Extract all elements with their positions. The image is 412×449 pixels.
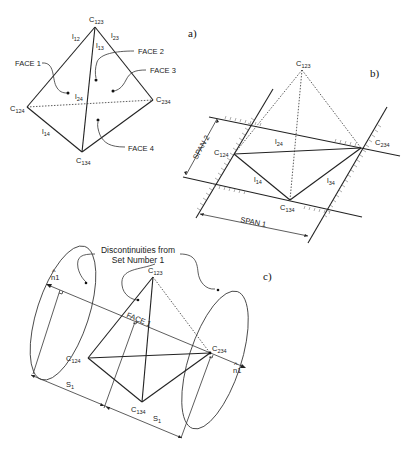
edge-l24 — [234, 148, 361, 154]
joint-right — [308, 107, 387, 243]
panel-b: b) SPAN 2 SPAN 1 C123 C124 C234 — [183, 59, 400, 243]
vertex-c134-label: C134 — [131, 405, 146, 415]
annotation-dot-left — [85, 282, 88, 285]
panel-a-label: a) — [188, 27, 197, 40]
vertex-c124-label: C124 — [214, 148, 229, 158]
tetrahedral-wedge-diagram: a) C123 C124 C234 C134 l12 l13 l23 l24 l… — [0, 0, 412, 449]
face-1-label: FACE 1 — [125, 311, 152, 329]
annotation-leader-left — [78, 254, 95, 282]
edge-l23-hidden — [153, 277, 210, 353]
vertex-c123-label: C123 — [148, 266, 163, 276]
edge-l14 — [88, 358, 142, 402]
vertex-c123-label: C123 — [89, 15, 104, 25]
discontinuity-plane-right — [168, 283, 262, 436]
vertex-c234-label: C234 — [212, 344, 227, 354]
spacing-label-2: S1 — [153, 414, 161, 424]
edge-l24-hidden — [27, 100, 153, 107]
edge-l12-label: l12 — [72, 32, 80, 42]
panel-b-label: b) — [370, 67, 380, 80]
edge-l34-label: l34 — [327, 176, 335, 186]
face-4-leader — [98, 122, 125, 147]
vertex-c234-label: C234 — [156, 95, 171, 105]
panel-c: c) Discontinuities — [17, 238, 272, 438]
face-2-leader — [95, 51, 134, 78]
vertex-c123-label: C123 — [296, 59, 311, 69]
plane-left-projection — [33, 290, 60, 374]
normal-hat-right: ^ — [234, 360, 238, 369]
face-1-leader — [42, 63, 67, 93]
edge-l34 — [142, 353, 210, 402]
edge-l14 — [27, 107, 82, 152]
face-2-dot — [95, 79, 98, 82]
spacing-dimension-line — [31, 375, 182, 438]
edge-l14 — [234, 154, 290, 200]
panel-a: a) C123 C124 C234 C134 l12 l13 l23 l24 l… — [10, 15, 197, 166]
vertex-c124-label: C124 — [66, 354, 81, 364]
annotation-dot-middle — [137, 299, 140, 302]
edge-l12-hidden — [234, 70, 302, 154]
face-3-label: FACE 3 — [150, 66, 176, 75]
vertex-c124-label: C124 — [10, 104, 25, 114]
face-4-dot — [97, 119, 100, 122]
edge-l13-label: l13 — [96, 41, 104, 51]
edge-l13 — [82, 27, 95, 152]
edge-l24 — [88, 353, 210, 358]
rock-hatching — [197, 116, 381, 217]
annotation-dot-right — [217, 289, 220, 292]
spacing-label-1: S1 — [66, 380, 74, 390]
annotation-line-1: Discontinuities from — [101, 245, 175, 255]
edge-l13 — [142, 277, 153, 402]
face1-projection — [104, 322, 135, 408]
edge-l24-label: l24 — [275, 137, 283, 147]
normal-hat-left: ^ — [52, 267, 56, 276]
edge-l23 — [95, 27, 153, 100]
edge-l14-label: l14 — [42, 127, 50, 137]
annotation-line-2: Set Number 1 — [112, 255, 165, 265]
panel-c-label: c) — [263, 270, 272, 283]
face-2-label: FACE 2 — [138, 47, 164, 56]
face-3-leader — [114, 70, 146, 91]
discontinuity-plane-left — [17, 238, 110, 387]
span-1-label: SPAN 1 — [240, 215, 267, 229]
vertex-c234-dot — [209, 352, 212, 355]
face-1-label: FACE 1 — [15, 59, 41, 68]
edge-l23-hidden — [302, 70, 361, 148]
vertex-c134-label: C134 — [280, 203, 295, 213]
edge-l34 — [290, 148, 361, 200]
vertex-c134-label: C134 — [76, 156, 91, 166]
face-4-label: FACE 4 — [128, 144, 154, 153]
edge-l23-label: l23 — [111, 31, 119, 41]
annotation-leader-right — [180, 254, 215, 289]
span-2-label: SPAN 2 — [191, 134, 212, 161]
vertex-c234-label: C234 — [375, 138, 390, 148]
edge-l24-label: l24 — [75, 92, 83, 102]
